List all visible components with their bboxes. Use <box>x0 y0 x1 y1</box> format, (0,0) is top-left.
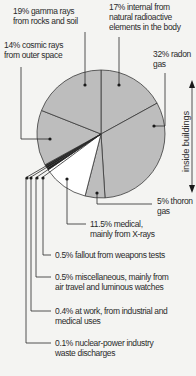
arrow-down-icon <box>189 185 195 193</box>
label-thoron-line1: 5% thoron <box>157 196 193 206</box>
label-fallout: 0.5% fallout from weapons tests <box>55 250 165 260</box>
leader-fallout <box>43 178 51 255</box>
label-radon: 32% radon gas <box>153 49 191 69</box>
leader-nuclear <box>26 178 51 343</box>
label-cosmic: 14% cosmic rays from outer space <box>4 40 63 60</box>
inside-buildings-label: inside buildings <box>180 111 191 172</box>
label-work-line2: medical uses <box>55 316 167 326</box>
label-misc-line2: air travel and luminous watches <box>55 282 169 292</box>
label-thoron-line2: gas <box>157 206 193 216</box>
leader-misc <box>36 178 51 277</box>
arrow-up-icon <box>189 80 195 88</box>
label-internal-line2: natural radioactive <box>109 12 181 22</box>
label-gamma-line2: from rocks and soil <box>13 16 78 26</box>
label-gamma-line1: 19% gamma rays <box>13 6 78 16</box>
label-medical-line2: mainly from X-rays <box>90 229 155 239</box>
label-internal-line3: elements in the body <box>109 22 181 32</box>
label-misc: 0.5% miscellaneous, mainly from air trav… <box>55 272 169 292</box>
label-medical-line1: 11.5% medical, <box>90 219 155 229</box>
label-radon-line1: 32% radon <box>153 49 191 59</box>
label-medical: 11.5% medical, mainly from X-rays <box>90 219 155 239</box>
label-nuclear-line1: 0.1% nuclear-power industry <box>55 338 153 348</box>
label-nuclear: 0.1% nuclear-power industry waste discha… <box>55 338 153 358</box>
label-work: 0.4% at work, from industrial and medica… <box>55 306 167 326</box>
label-misc-line1: 0.5% miscellaneous, mainly from <box>55 272 169 282</box>
label-internal: 17% internal from natural radioactive el… <box>109 2 181 32</box>
label-cosmic-line2: from outer space <box>4 50 63 60</box>
leader-work <box>31 178 51 311</box>
label-fallout-line1: 0.5% fallout from weapons tests <box>55 250 165 260</box>
label-work-line1: 0.4% at work, from industrial and <box>55 306 167 316</box>
label-radon-line2: gas <box>153 59 191 69</box>
label-internal-line1: 17% internal from <box>109 2 181 12</box>
label-nuclear-line2: waste discharges <box>55 348 153 358</box>
label-cosmic-line1: 14% cosmic rays <box>4 40 63 50</box>
label-gamma: 19% gamma rays from rocks and soil <box>13 6 78 26</box>
label-thoron: 5% thoron gas <box>157 196 193 216</box>
